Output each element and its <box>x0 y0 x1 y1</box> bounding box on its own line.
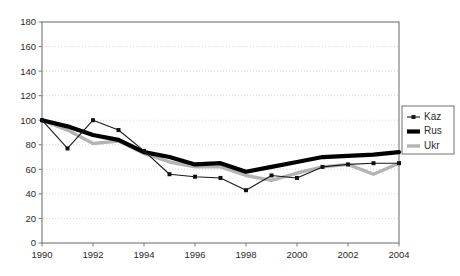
line-chart: 020406080100120140160180 199019921994199… <box>0 0 460 276</box>
data-point-marker <box>397 161 401 165</box>
data-point-marker <box>295 176 299 180</box>
y-axis-tick-label: 120 <box>20 90 36 101</box>
x-axis-tick-label: 2002 <box>337 249 358 260</box>
x-axis-tick-label: 2000 <box>286 249 307 260</box>
data-point-marker <box>168 172 172 176</box>
y-axis-tick-label: 100 <box>20 115 36 126</box>
y-axis-tick-label: 80 <box>25 139 36 150</box>
y-axis-tick-label: 140 <box>20 66 36 77</box>
x-axis-tick-label: 2004 <box>388 249 409 260</box>
legend-label-ukr: Ukr <box>424 140 440 151</box>
chart-canvas: 020406080100120140160180 199019921994199… <box>0 0 460 276</box>
chart-legend: KazRusUkr <box>402 106 454 154</box>
legend-label-rus: Rus <box>424 125 442 136</box>
data-point-marker <box>244 188 248 192</box>
data-point-marker <box>321 165 325 169</box>
data-point-marker <box>193 175 197 179</box>
x-axis-tick-label: 1990 <box>31 249 52 260</box>
legend-swatch-kaz-marker <box>412 115 416 119</box>
y-axis-tick-label: 180 <box>20 16 36 27</box>
data-point-marker <box>270 173 274 177</box>
y-axis-tick-label: 0 <box>31 237 36 248</box>
data-point-marker <box>117 128 121 132</box>
y-axis-tick-label: 60 <box>25 164 36 175</box>
x-axis-tick-label: 1996 <box>184 249 205 260</box>
data-point-marker <box>346 162 350 166</box>
data-point-marker <box>40 118 44 122</box>
data-point-marker <box>91 118 95 122</box>
x-axis-tick-label: 1992 <box>82 249 103 260</box>
data-point-marker <box>219 176 223 180</box>
data-point-marker <box>66 146 70 150</box>
data-point-marker <box>142 149 146 153</box>
x-axis-tick-label: 1998 <box>235 249 256 260</box>
plot-area-frame <box>42 22 399 243</box>
legend-label-kaz: Kaz <box>424 111 441 122</box>
data-point-marker <box>372 161 376 165</box>
y-axis-tick-label: 160 <box>20 41 36 52</box>
x-axis-tick-label: 1994 <box>133 249 154 260</box>
y-axis-tick-label: 20 <box>25 213 36 224</box>
y-axis-tick-label: 40 <box>25 188 36 199</box>
